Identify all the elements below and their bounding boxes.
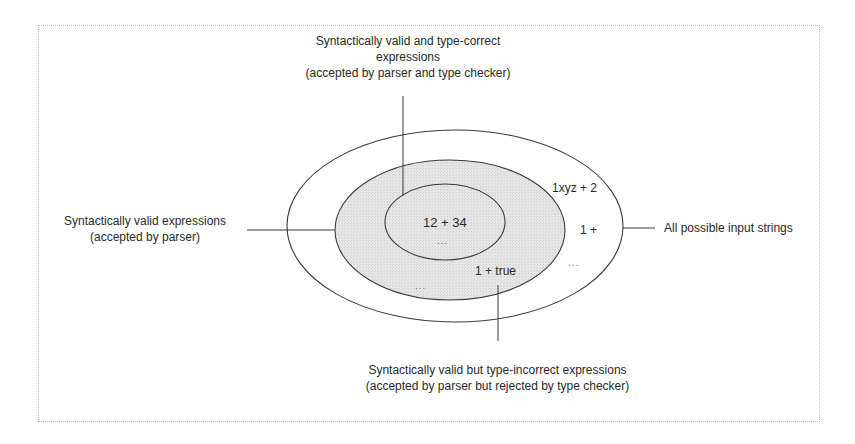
example-1-plus-true: 1 + true [475,264,516,278]
label-type-correct-line2: expressions [303,49,513,65]
label-syntactically-valid-line2: (accepted by parser) [45,229,245,245]
example-ellipsis-outer: ... [568,257,579,268]
label-type-incorrect-line1: Syntactically valid but type-incorrect e… [340,362,655,378]
label-type-correct-line1: Syntactically valid and type-correct [303,33,513,49]
label-all-inputs: All possible input strings [664,220,793,236]
example-ellipsis-inner: ... [437,235,448,246]
label-syntactically-valid-line1: Syntactically valid expressions [45,213,245,229]
example-12-plus-34: 12 + 34 [423,216,467,230]
label-type-incorrect-line2: (accepted by parser but rejected by type… [340,378,655,394]
example-1xyz-plus-2: 1xyz + 2 [552,181,597,195]
label-type-correct: Syntactically valid and type-correct exp… [303,33,513,81]
example-ellipsis-middle: ... [415,280,426,291]
label-syntactically-valid: Syntactically valid expressions (accepte… [45,213,245,245]
example-1-plus: 1 + [580,223,597,237]
label-type-correct-line3: (accepted by parser and type checker) [303,65,513,81]
label-type-incorrect: Syntactically valid but type-incorrect e… [340,362,655,394]
